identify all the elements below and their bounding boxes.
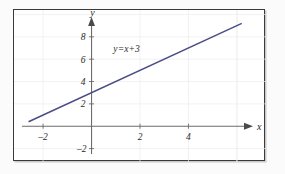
x-tick-label: 4 [186,132,191,142]
coordinate-plot: –224–22468 x y y=x+3 [14,10,266,162]
x-tick-label: 2 [138,132,143,142]
y-tick-label: 4 [81,77,86,87]
y-tick-label: 2 [81,99,86,109]
x-tick-label: –2 [37,132,48,142]
y-tick-label: –2 [76,144,87,154]
x-axis-arrowhead [244,123,253,130]
equation-annotation: y=x+3 [112,44,140,54]
x-axis-label: x [256,121,262,132]
function-line-group [29,23,242,121]
function-line [29,23,242,121]
y-axis-arrowhead [88,17,95,26]
plot-area: –224–22468 x y y=x+3 [14,10,264,160]
y-tick-label: 8 [81,32,86,42]
screenshot-root: –224–22468 x y y=x+3 [0,0,285,174]
y-tick-label: 6 [81,55,86,65]
y-axis-label: y [89,10,95,18]
figure-frame: –224–22468 x y y=x+3 [13,9,265,161]
